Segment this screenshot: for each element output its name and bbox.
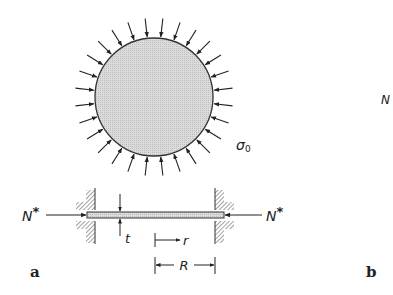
- plate-section: [87, 212, 224, 218]
- pressure-arrow: [211, 71, 228, 77]
- pressure-arrow: [211, 117, 228, 123]
- pressure-arrow: [214, 104, 232, 106]
- pressure-arrow: [87, 55, 103, 65]
- pressure-arrow: [79, 71, 96, 77]
- force-label-right: N*: [266, 204, 283, 224]
- pressure-arrow: [145, 157, 147, 175]
- partial-force-label: N: [381, 93, 390, 107]
- pressure-arrow: [174, 22, 180, 39]
- pressure-arrow: [87, 129, 103, 139]
- pressure-arrow: [197, 41, 210, 54]
- pressure-arrow: [145, 18, 147, 36]
- pressure-arrow: [161, 157, 163, 175]
- pressure-arrow: [205, 129, 221, 139]
- thickness-label: t: [125, 231, 131, 246]
- pressure-arrow: [98, 140, 111, 153]
- figure: σ0 N* N*: [0, 0, 393, 295]
- force-label-left: N*: [22, 204, 39, 224]
- pressure-arrow: [112, 148, 122, 164]
- pressure-arrow: [128, 22, 134, 39]
- pressure-arrow: [98, 41, 111, 54]
- pressure-arrow: [161, 18, 163, 36]
- pressure-arrow: [75, 88, 93, 90]
- circular-plate: [95, 38, 213, 156]
- panel-b-label: b: [366, 263, 377, 281]
- pressure-arrow: [75, 104, 93, 106]
- pressure-arrow: [214, 88, 232, 90]
- pressure-arrow: [79, 117, 96, 123]
- R-dimension: R: [155, 257, 215, 274]
- pressure-arrow: [186, 148, 196, 164]
- cross-section-group: N* N* t r R: [22, 188, 283, 274]
- panel-a-label: a: [30, 263, 40, 281]
- pressure-arrow: [186, 30, 196, 46]
- thickness-dimension: t: [120, 194, 131, 246]
- pressure-arrow: [128, 154, 134, 171]
- stress-label: σ0: [236, 137, 251, 154]
- R-label: R: [179, 258, 188, 273]
- r-label: r: [183, 233, 190, 248]
- pressure-arrow: [205, 55, 221, 65]
- r-dimension: r: [155, 233, 190, 248]
- circular-plate-group: σ0: [75, 18, 250, 175]
- pressure-arrow: [197, 140, 210, 153]
- pressure-arrow: [112, 30, 122, 46]
- pressure-arrow: [174, 154, 180, 171]
